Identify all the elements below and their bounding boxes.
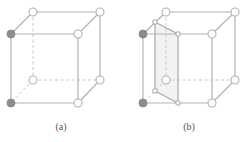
plane-node-icon — [176, 101, 180, 105]
cube-edge — [11, 12, 33, 34]
cube-diagram: (a) (b) — [0, 0, 245, 142]
plane-node-icon — [153, 20, 157, 24]
filled-node-icon — [139, 30, 147, 38]
open-node-icon — [231, 76, 239, 84]
open-node-icon — [231, 8, 239, 16]
panel-label-a: (a) — [55, 121, 66, 133]
open-node-icon — [74, 99, 82, 107]
open-node-icon — [162, 8, 170, 16]
open-node-icon — [96, 76, 104, 84]
cube-edge — [212, 12, 235, 34]
cube-edge — [212, 80, 235, 103]
open-node-icon — [162, 76, 170, 84]
hidden-edge — [11, 80, 33, 103]
cube-panel-a — [7, 8, 104, 107]
plane-node-icon — [176, 32, 180, 36]
open-node-icon — [208, 99, 216, 107]
panel-label-b: (b) — [183, 121, 195, 133]
filled-node-icon — [7, 99, 15, 107]
cube-edge — [78, 80, 100, 103]
open-node-icon — [208, 30, 216, 38]
filled-node-icon — [7, 30, 15, 38]
plane-node-icon — [153, 89, 157, 93]
cube-panel-b — [139, 8, 239, 107]
open-node-icon — [29, 8, 37, 16]
open-node-icon — [96, 8, 104, 16]
filled-node-icon — [139, 99, 147, 107]
open-node-icon — [74, 30, 82, 38]
open-node-icon — [29, 76, 37, 84]
cube-edge — [78, 12, 100, 34]
